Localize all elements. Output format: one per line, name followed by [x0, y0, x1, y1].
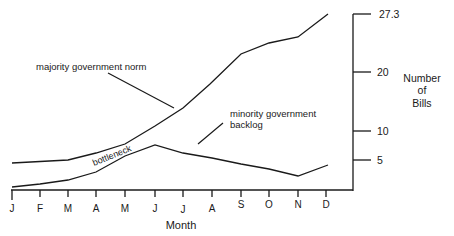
x-tick-label: J	[153, 203, 158, 214]
x-tick-labels: J F M A M J J A S O N D	[10, 199, 330, 215]
bills-by-month-chart: J F M A M J J A S O N D 27.3 20 10 5 Num…	[0, 0, 454, 236]
annotation-leader-line	[108, 73, 174, 108]
majority-government-norm-line	[12, 14, 328, 163]
y-tick-label: 5	[377, 154, 383, 166]
x-axis	[11, 190, 353, 200]
x-tick-label: S	[238, 199, 245, 210]
annotation-backlog: backlog	[230, 119, 263, 130]
x-tick-label: J	[10, 203, 15, 214]
x-tick-label: O	[265, 199, 273, 210]
x-tick-label: F	[37, 203, 43, 214]
svg-text:of: of	[418, 84, 427, 96]
y-tick-labels: 27.3 20 10 5	[377, 8, 400, 166]
y-axis	[353, 14, 371, 191]
y-tick-label: 10	[377, 125, 389, 137]
annotation-majority-government-norm: majority government norm	[36, 61, 146, 72]
minority-government-backlog-line	[12, 145, 328, 187]
svg-text:Number: Number	[403, 72, 441, 84]
x-tick-label: A	[209, 203, 216, 214]
annotation-minority-government: minority government	[230, 108, 316, 119]
x-tick-label: M	[64, 203, 72, 214]
svg-text:Bills: Bills	[412, 97, 431, 109]
x-axis-label: Month	[166, 219, 197, 231]
y-tick-label: 20	[377, 66, 389, 78]
y-tick-label: 27.3	[379, 8, 400, 20]
x-tick-label: N	[294, 199, 301, 210]
x-tick-label: M	[121, 203, 129, 214]
x-tick-label: A	[93, 203, 100, 214]
x-tick-label: D	[322, 199, 329, 210]
x-tick-label: J	[181, 204, 186, 215]
y-axis-label: Number of Bills	[403, 72, 441, 109]
annotation-leader-line	[198, 123, 223, 144]
